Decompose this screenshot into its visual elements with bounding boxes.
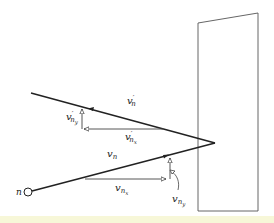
label-v-n: vn bbox=[107, 148, 118, 161]
diagram-canvas: n vn vnx vny v′n v′nx v′ny bbox=[0, 0, 274, 223]
wall bbox=[198, 13, 258, 211]
label-vp-n: v′n bbox=[127, 94, 136, 108]
label-v-nx: vnx bbox=[115, 182, 129, 196]
label-vp-nx: v′nx bbox=[125, 130, 138, 145]
reflected-trajectory bbox=[31, 93, 215, 143]
particle-label: n bbox=[16, 187, 22, 197]
particle-circle bbox=[24, 188, 32, 196]
v-ny-pointer bbox=[172, 172, 179, 190]
incoming-arrowhead-icon bbox=[163, 155, 169, 159]
label-v-ny: vny bbox=[172, 193, 186, 208]
incoming-trajectory bbox=[32, 143, 215, 191]
label-vp-ny: v′ny bbox=[66, 110, 79, 126]
bottom-band bbox=[0, 216, 274, 223]
